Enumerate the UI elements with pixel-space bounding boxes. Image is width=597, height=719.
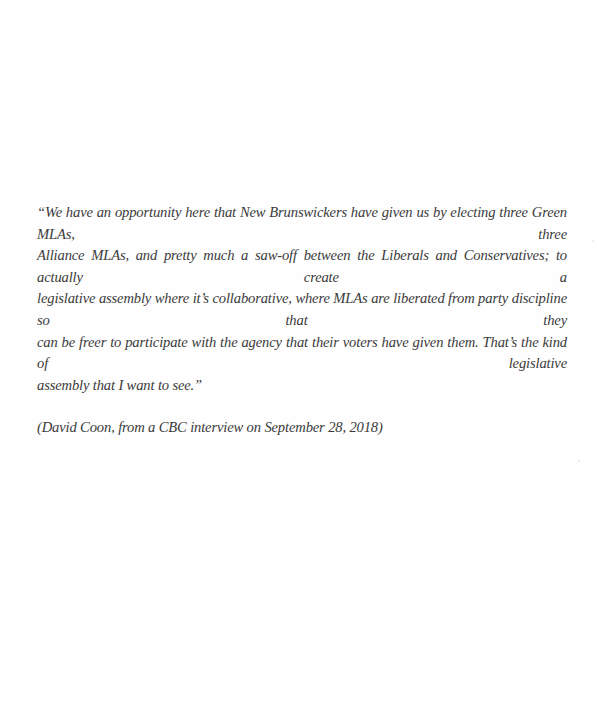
- quote-line-1: “We have an opportunity here that New Br…: [37, 202, 567, 245]
- scan-speck: [592, 240, 594, 242]
- quote-line-4: can be freer to participate with the age…: [37, 332, 567, 375]
- quote-line-5: assembly that I want to see.”: [37, 375, 567, 397]
- document-page: “We have an opportunity here that New Br…: [0, 0, 597, 719]
- quote-line-2: Alliance MLAs, and pretty much a saw-off…: [37, 245, 567, 288]
- quote-block: “We have an opportunity here that New Br…: [37, 202, 567, 439]
- quote-line-3: legislative assembly where it’s collabor…: [37, 288, 567, 331]
- scan-speck: [578, 460, 580, 462]
- quote-attribution: (David Coon, from a CBC interview on Sep…: [37, 417, 567, 439]
